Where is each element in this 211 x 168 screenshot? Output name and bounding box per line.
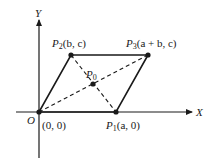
- p3-label: P3(a + b, c): [125, 37, 177, 51]
- point-p1: [113, 109, 118, 114]
- origin-label: O: [27, 114, 35, 126]
- p0-label: P0: [85, 68, 97, 82]
- x-axis-label: X: [195, 106, 204, 118]
- point-p2: [68, 52, 73, 57]
- origin-coords: (0, 0): [42, 119, 66, 132]
- point-origin: [36, 109, 41, 114]
- parallelogram-diagram: Y X O (0, 0) P1(a, 0) P2(b, c) P3(a + b,…: [0, 0, 211, 168]
- p1-label: P1(a, 0): [105, 119, 140, 133]
- point-p0: [90, 81, 95, 86]
- p2-label: P2(b, c): [51, 37, 86, 51]
- point-p3: [145, 52, 150, 57]
- y-axis-label: Y: [35, 7, 43, 19]
